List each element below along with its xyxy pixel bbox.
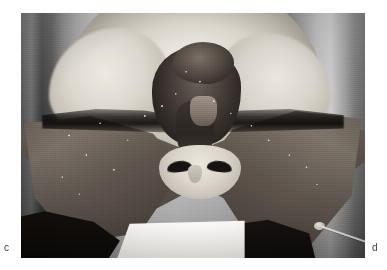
panel-label-c: c: [4, 243, 9, 253]
panel-label-d: d: [372, 243, 378, 253]
figure-page: c d: [0, 0, 387, 270]
photo-vignette: [21, 13, 365, 258]
clinical-photograph: [21, 13, 365, 258]
